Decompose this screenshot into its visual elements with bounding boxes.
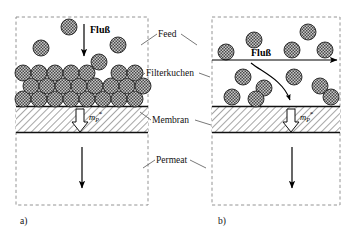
label-permeat: Permeat — [156, 155, 187, 165]
panel-a-filter-cake — [15, 65, 151, 107]
panel-a-flux-label: Fluß — [90, 24, 110, 35]
panel-b-mdot-superscript: * — [310, 110, 314, 118]
label-membran: Membran — [152, 115, 189, 125]
panel-a-caption: a) — [20, 216, 27, 227]
panel-b-caption: b) — [218, 216, 226, 227]
panel-b-flux-label: Fluß — [251, 47, 271, 58]
panel-a-mdot-superscript: * — [99, 110, 103, 118]
figure-root: Fluß mP* a) — [0, 0, 353, 231]
label-feed: Feed — [158, 29, 177, 39]
label-filterkuchen: Filterkuchen — [146, 68, 194, 78]
membrane-filtration-diagram: Fluß mP* a) — [0, 0, 353, 231]
panel-b-membrane — [212, 106, 340, 133]
